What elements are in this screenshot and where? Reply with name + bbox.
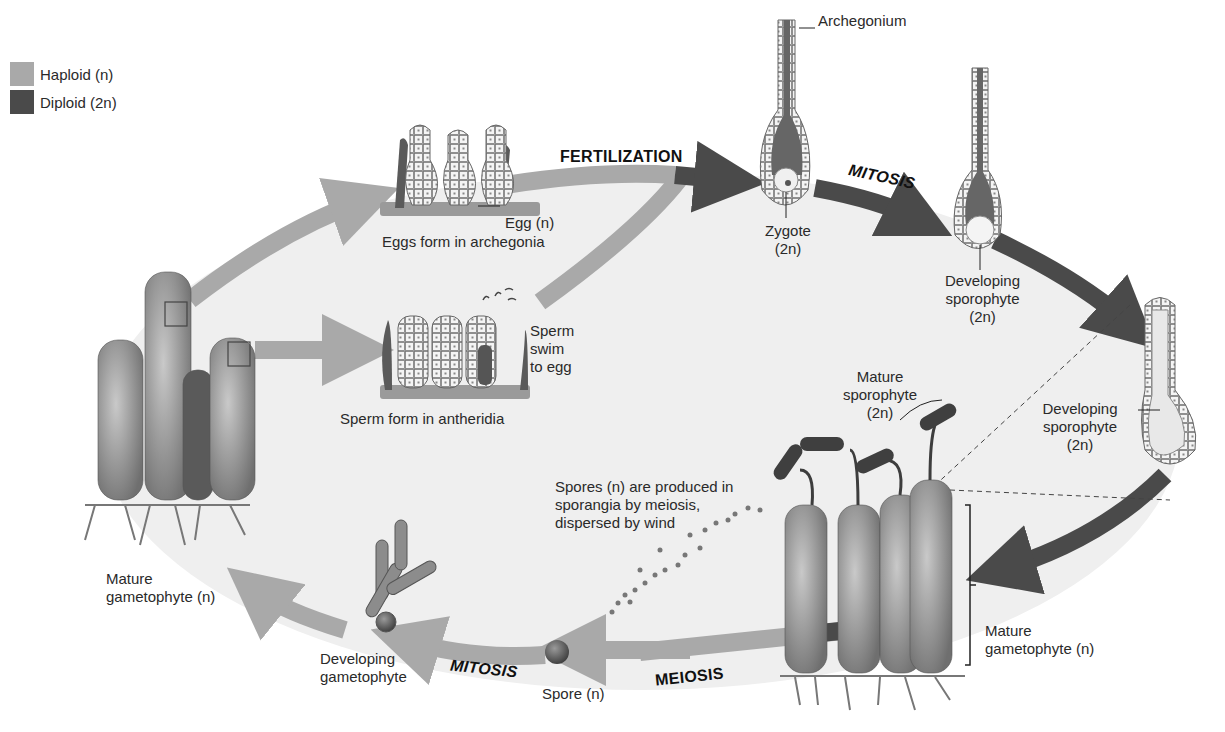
label-archegonium: Archegonium: [818, 12, 906, 30]
label-zygote: Zygote (2n): [758, 222, 818, 258]
label-sperm-swim: Sperm swim to egg: [530, 322, 574, 376]
label-spore: Spore (n): [542, 685, 605, 703]
label-dev-sporophyte-2-line2: sporophyte: [1030, 418, 1130, 436]
label-dev-sporophyte-2-line1: Developing: [1030, 400, 1130, 418]
archegonium-zygote: [760, 20, 815, 218]
label-eggs-form: Eggs form in archegonia: [382, 233, 545, 251]
label-egg: Egg (n): [505, 214, 554, 232]
archegonia-illustration: [380, 125, 540, 216]
label-mature-sporophyte-line2: sporophyte: [830, 386, 930, 404]
label-mature-gametophyte-left: Mature gametophyte (n): [106, 570, 215, 606]
legend-item-haploid: Haploid (n): [10, 62, 117, 86]
label-sperm-form: Sperm form in antheridia: [340, 410, 504, 428]
stage-fertilization: FERTILIZATION: [560, 148, 683, 166]
label-mature-sporophyte-line3: (2n): [830, 404, 930, 422]
legend-label-diploid: Diploid (2n): [40, 94, 117, 111]
label-sperm-swim-line2: swim: [530, 340, 574, 358]
label-developing-sporophyte-1: Developing sporophyte (2n): [935, 272, 1030, 326]
archegonium-developing-sporophyte: [954, 68, 1001, 270]
label-mature-sporophyte: Mature sporophyte (2n): [830, 368, 930, 422]
label-dev-sporophyte-1-line1: Developing: [935, 272, 1030, 290]
label-sperm-swim-line1: Sperm: [530, 322, 574, 340]
label-dev-sporophyte-1-line3: (2n): [935, 308, 1030, 326]
label-spores-line1: Spores (n) are produced in: [555, 478, 733, 496]
legend: Haploid (n) Diploid (2n): [10, 62, 117, 118]
label-dev-sporophyte-1-line2: sporophyte: [935, 290, 1030, 308]
legend-item-diploid: Diploid (2n): [10, 90, 117, 114]
label-developing-gametophyte: Developing gametophyte: [320, 650, 407, 686]
label-developing-gametophyte-line2: gametophyte: [320, 668, 407, 686]
label-mature-gametophyte-right-line2: gametophyte (n): [985, 640, 1094, 658]
label-mature-gametophyte-left-line1: Mature: [106, 570, 215, 588]
label-spores-line2: sporangia by meiosis,: [555, 496, 733, 514]
label-spores: Spores (n) are produced in sporangia by …: [555, 478, 733, 532]
label-mature-gametophyte-left-line2: gametophyte (n): [106, 588, 215, 606]
spore-illustration: [545, 640, 569, 664]
diploid-swatch: [10, 90, 34, 114]
label-zygote-line1: Zygote: [758, 222, 818, 240]
label-zygote-line2: (2n): [758, 240, 818, 258]
legend-label-haploid: Haploid (n): [40, 66, 113, 83]
label-developing-gametophyte-line1: Developing: [320, 650, 407, 668]
label-mature-sporophyte-line1: Mature: [830, 368, 930, 386]
label-spores-line3: dispersed by wind: [555, 514, 733, 532]
label-developing-sporophyte-2: Developing sporophyte (2n): [1030, 400, 1130, 454]
haploid-swatch: [10, 62, 34, 86]
label-mature-gametophyte-right: Mature gametophyte (n): [985, 622, 1094, 658]
label-sperm-swim-line3: to egg: [530, 358, 574, 376]
label-dev-sporophyte-2-line3: (2n): [1030, 436, 1130, 454]
label-mature-gametophyte-right-line1: Mature: [985, 622, 1094, 640]
